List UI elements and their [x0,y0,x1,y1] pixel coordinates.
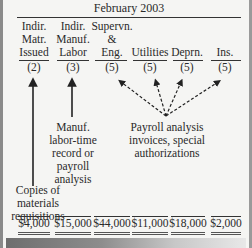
amount-utilities: $11,000 [130,217,170,230]
note-line: labor-time [47,134,99,147]
note-line: payroll [47,160,99,173]
double-underline [171,232,205,233]
double-underline [171,234,205,235]
double-underline [55,234,91,235]
double-underline [94,232,130,233]
note-line: Copies of [9,184,67,197]
double-underline [211,234,241,235]
note-line: authorizations [121,147,213,160]
note-line: Payroll analysis [121,121,213,134]
double-underline [132,232,168,233]
diagram-frame: February 2003 Indir. Matr. Issued Indir.… [0,0,252,248]
double-underline [55,232,91,233]
labor-source-note: Manuf. labor-time record or payroll anal… [47,121,99,186]
note-line: materials [9,197,67,210]
amount-ins: $2,000 [209,217,243,230]
note-line: record or [47,147,99,160]
payroll-source-note: Payroll analysis invoices, special autho… [121,121,213,160]
double-underline [94,234,130,235]
amount-deprn: $18,000 [169,217,207,230]
bottom-gradient-bar [6,238,246,248]
payroll-arrow-deprn [166,82,181,116]
double-underline [211,232,241,233]
amount-indir-matr: $4,000 [16,217,52,230]
double-underline [18,234,50,235]
double-underline [132,234,168,235]
payroll-arrow-utilities [156,82,166,116]
payroll-arrow-supervn [121,82,166,116]
amount-indir-labor: $15,000 [53,217,93,230]
payroll-arrow-ins [166,82,218,116]
double-underline [18,232,50,233]
note-line: invoices, special [121,134,213,147]
note-line: Manuf. [47,121,99,134]
amount-supervn-eng: $44,000 [92,217,132,230]
